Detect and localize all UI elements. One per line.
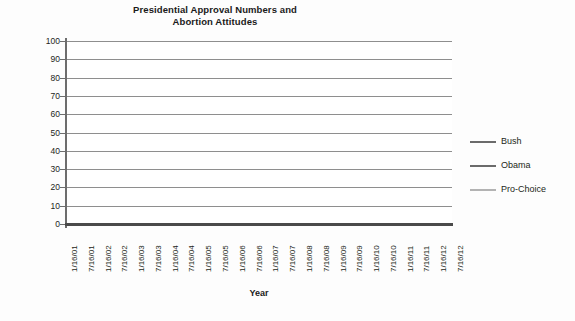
x-axis-tick-label: 7/16/01 <box>87 245 96 272</box>
chart-legend: BushObamaPro-Choice <box>470 133 570 205</box>
y-axis-tick-label: 20 <box>34 183 60 192</box>
x-axis-tick-label: 7/16/04 <box>187 245 196 272</box>
x-axis-tick-label: 1/16/02 <box>104 245 113 272</box>
x-axis-tick-labels: 1/16/017/16/011/16/027/16/021/16/037/16/… <box>66 228 452 278</box>
x-axis-tick-label: 7/16/10 <box>389 245 398 272</box>
legend-swatch <box>470 141 496 143</box>
chart-page: Presidential Approval Numbers and Aborti… <box>0 0 575 321</box>
plot-area <box>66 41 452 224</box>
gridline <box>66 133 452 134</box>
legend-swatch <box>470 165 496 167</box>
x-axis-tick-label: 1/16/09 <box>339 245 348 272</box>
x-axis-tick-label: 7/16/02 <box>120 245 129 272</box>
x-axis-tick-label: 1/16/01 <box>70 245 79 272</box>
chart-title-line-2: Abortion Attitudes <box>0 16 430 28</box>
x-axis-tick-label: 1/16/03 <box>137 245 146 272</box>
gridline <box>66 206 452 207</box>
y-axis-tick-label: 30 <box>34 165 60 174</box>
x-axis-tick-label: 7/16/11 <box>422 246 431 272</box>
gridline <box>66 114 452 115</box>
x-axis-tick-label: 7/16/03 <box>154 245 163 272</box>
legend-item: Bush <box>470 133 570 157</box>
y-axis-tick-label: 50 <box>34 129 60 138</box>
x-axis-tick-label: 1/16/05 <box>204 245 213 272</box>
gridline <box>66 96 452 97</box>
y-axis-tick-label: 100 <box>34 37 60 46</box>
gridline <box>66 78 452 79</box>
x-axis-tick-label: 1/16/08 <box>305 245 314 272</box>
gridline <box>66 151 452 152</box>
y-axis-tick-label: 40 <box>34 147 60 156</box>
y-axis-tick-label: 60 <box>34 110 60 119</box>
legend-item: Pro-Choice <box>470 181 570 205</box>
legend-label: Pro-Choice <box>501 183 546 195</box>
x-axis-line <box>65 223 453 226</box>
x-axis-tick-label: 7/16/06 <box>255 245 264 272</box>
x-axis-tick-label: 1/16/04 <box>171 245 180 272</box>
x-axis-tick-label: 7/16/05 <box>221 245 230 272</box>
y-axis-tick-label: 70 <box>34 92 60 101</box>
gridline <box>66 169 452 170</box>
y-axis-tick-label: 80 <box>34 74 60 83</box>
x-axis-tick-label: 1/16/06 <box>238 245 247 272</box>
legend-label: Bush <box>501 135 522 147</box>
y-axis-tick-labels: 1009080706050403020100 <box>30 41 60 224</box>
x-axis-tick-label: 7/16/12 <box>456 245 465 272</box>
y-axis-tick-label: 0 <box>34 220 60 229</box>
legend-swatch <box>470 189 496 191</box>
x-axis-tick-label: 7/16/09 <box>355 245 364 272</box>
legend-item: Obama <box>470 157 570 181</box>
gridline <box>66 59 452 60</box>
y-axis-line <box>65 38 67 228</box>
x-axis-tick-label: 1/16/12 <box>439 245 448 272</box>
chart-title: Presidential Approval Numbers and Aborti… <box>0 4 430 28</box>
x-axis-tick-label: 7/16/08 <box>322 245 331 272</box>
legend-label: Obama <box>501 159 531 171</box>
x-axis-title: Year <box>66 288 452 298</box>
x-axis-tick-label: 1/16/11 <box>406 246 415 272</box>
x-axis-tick-label: 1/16/10 <box>372 245 381 272</box>
chart-title-line-1: Presidential Approval Numbers and <box>133 4 297 15</box>
x-axis-tick-label: 7/16/07 <box>288 245 297 272</box>
gridline <box>66 187 452 188</box>
y-axis-tick-label: 90 <box>34 55 60 64</box>
gridline <box>66 41 452 42</box>
y-axis-tick-label: 10 <box>34 202 60 211</box>
x-axis-tick-label: 1/16/07 <box>271 245 280 272</box>
